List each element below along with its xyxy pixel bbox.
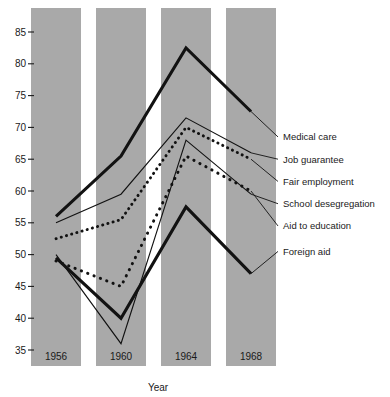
y-tick-label-65: 65 [15,154,27,165]
legend-label-fair-employment: Fair employment [283,176,354,187]
legend-label-school-desegregation: School desegregation [283,198,375,209]
y-tick-label-80: 80 [15,58,27,69]
legend-group: Medical careJob guaranteeFair employment… [283,131,375,256]
chart-canvas: 3540455055606570758085 Medical careJob g… [0,0,390,397]
y-tick-label-35: 35 [15,345,27,356]
y-tick-label-85: 85 [15,27,27,38]
legend-label-medical-care: Medical care [283,131,337,142]
x-tick-label-1956: 1956 [45,351,68,362]
legend-label-job-guarantee: Job guarantee [283,154,344,165]
series-line-aid-to-education [56,156,251,286]
year-band-1960 [96,8,146,366]
year-band-1964 [161,8,211,366]
x-tick-label-1968: 1968 [240,351,263,362]
x-axis-title: Year [148,382,169,393]
series-line-foreign-aid [56,207,251,318]
y-tick-label-55: 55 [15,217,27,228]
survey-trend-line-chart: 3540455055606570758085 Medical careJob g… [0,0,390,397]
year-band-1956 [31,8,81,366]
year-band-1968 [226,8,276,366]
legend-label-foreign-aid: Foreign aid [283,246,331,257]
y-tick-label-75: 75 [15,90,27,101]
x-tick-label-1964: 1964 [175,351,198,362]
series-line-medical-care [56,48,251,217]
data-series-group [56,48,251,344]
y-tick-label-45: 45 [15,281,27,292]
y-tick-label-60: 60 [15,186,27,197]
y-tick-label-50: 50 [15,249,27,260]
x-tick-label-1960: 1960 [110,351,133,362]
year-band-group [31,8,276,366]
y-tick-label-70: 70 [15,122,27,133]
legend-label-aid-to-education: Aid to education [283,220,351,231]
y-tick-label-40: 40 [15,313,27,324]
